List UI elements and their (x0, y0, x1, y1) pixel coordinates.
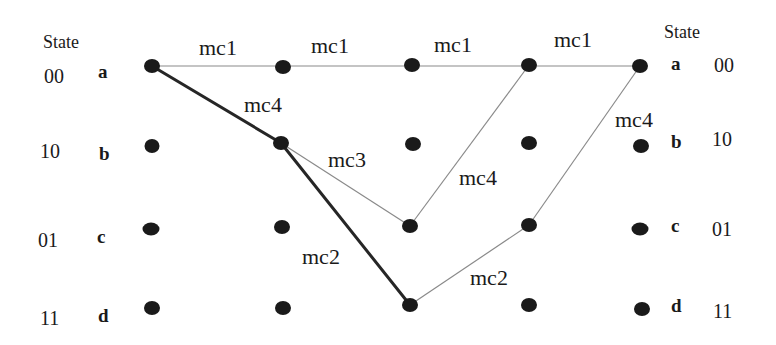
node-d-t1 (275, 301, 291, 315)
label-a0-b1: mc4 (244, 92, 282, 117)
left-letter-a: a (98, 61, 108, 82)
left-state-header: State (43, 32, 79, 52)
node-d-t0 (144, 301, 160, 315)
node-d-t3 (521, 298, 537, 312)
node-b-t4 (633, 139, 649, 153)
label-b1-d2: mc2 (302, 244, 340, 269)
node-a-t2 (404, 58, 420, 72)
node-b-t2 (405, 137, 421, 151)
label-a1-a2: mc1 (311, 33, 349, 58)
right-code-b: 10 (712, 128, 732, 150)
label-a0-a1: mc1 (199, 35, 237, 60)
right-letter-a: a (671, 53, 681, 74)
thin-edges (152, 65, 640, 305)
right-code-d: 11 (713, 300, 732, 322)
label-d2-c3: mc2 (470, 265, 508, 290)
node-c-t4 (632, 223, 649, 236)
label-a3-a4: mc1 (554, 27, 592, 52)
right-letter-d: d (671, 295, 682, 316)
edge-c2-a3 (410, 65, 529, 226)
node-c-t2 (402, 219, 418, 233)
node-a-t4 (632, 59, 648, 73)
node-b-t1 (273, 136, 289, 150)
nodes (143, 58, 651, 316)
node-d-t4 (634, 302, 650, 316)
left-code-a: 00 (44, 65, 64, 87)
node-d-t2 (402, 298, 418, 312)
right-code-c: 01 (712, 218, 732, 240)
edge-c3-a4 (529, 66, 640, 225)
right-letter-b: b (671, 131, 682, 152)
label-c3-a4: mc4 (615, 107, 653, 132)
trellis-diagram: State 00 a 10 b 01 c 11 d State a 00 b 1… (0, 0, 776, 345)
right-state-header: State (664, 22, 700, 42)
node-c-t1 (274, 220, 290, 234)
node-b-t0 (145, 139, 160, 153)
left-letter-c: c (97, 226, 105, 247)
left-letter-b: b (99, 143, 110, 164)
node-b-t3 (521, 136, 537, 150)
label-c2-a3: mc4 (459, 165, 497, 190)
node-a-t3 (521, 58, 537, 72)
left-code-d: 11 (40, 307, 59, 329)
left-letter-d: d (98, 305, 109, 326)
node-c-t0 (143, 223, 160, 236)
right-letter-c: c (671, 215, 679, 236)
left-code-b: 10 (40, 140, 60, 162)
left-code-c: 01 (38, 229, 58, 251)
label-b1-c2: mc3 (328, 147, 366, 172)
right-code-a: 00 (714, 54, 734, 76)
label-a2-a3: mc1 (434, 32, 472, 57)
node-c-t3 (521, 218, 537, 232)
node-a-t0 (144, 59, 160, 73)
node-a-t1 (275, 60, 291, 74)
